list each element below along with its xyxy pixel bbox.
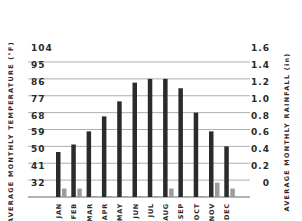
month-label: SEP bbox=[177, 203, 185, 219]
left-tick-label: 68 bbox=[31, 111, 46, 121]
right-tick-label: 1.2 bbox=[251, 77, 270, 87]
right-tick-label: 0 bbox=[263, 178, 270, 188]
left-tick-label: 95 bbox=[31, 60, 46, 70]
rainfall-bar bbox=[77, 189, 82, 197]
month-label: MAR bbox=[86, 203, 94, 221]
right-tick-label: 0.8 bbox=[251, 111, 270, 121]
temperature-bar bbox=[163, 79, 168, 197]
right-tick-label: 0.6 bbox=[251, 127, 270, 137]
month-label: JAN bbox=[55, 203, 63, 219]
temperature-bar bbox=[87, 131, 92, 197]
right-axis-ticks: 00.20.40.60.81.01.21.41.6 bbox=[251, 43, 270, 188]
right-tick-label: 1.4 bbox=[251, 60, 270, 70]
rainfall-bar bbox=[139, 196, 144, 197]
rainfall-bar bbox=[62, 189, 67, 197]
right-tick-label: 0.2 bbox=[251, 161, 270, 171]
rainfall-bar bbox=[200, 196, 205, 197]
month-label: JUN bbox=[132, 203, 140, 220]
bars bbox=[56, 79, 235, 197]
temperature-bar bbox=[56, 152, 61, 197]
month-labels: JANFEBMARAPRMAYJUNJULAUGSEPOCTNOVDEC bbox=[55, 203, 231, 221]
left-tick-label: 104 bbox=[31, 43, 53, 53]
right-tick-label: 0.4 bbox=[251, 144, 270, 154]
left-tick-label: 86 bbox=[31, 77, 46, 87]
gridlines bbox=[28, 62, 250, 197]
temperature-bar bbox=[102, 116, 107, 197]
month-label: FEB bbox=[70, 203, 78, 219]
temperature-bar bbox=[209, 131, 214, 197]
rainfall-bar bbox=[169, 189, 174, 197]
temperature-bar bbox=[194, 113, 199, 197]
rainfall-bar bbox=[154, 196, 159, 197]
rainfall-bar bbox=[108, 196, 113, 197]
left-tick-label: 77 bbox=[31, 94, 46, 104]
right-axis-title: AVERAGE MONTHLY RAINFALL (in) bbox=[283, 52, 291, 211]
month-label: APR bbox=[101, 203, 109, 220]
right-tick-label: 1.6 bbox=[251, 43, 270, 53]
rainfall-bar bbox=[123, 196, 128, 197]
temperature-bar bbox=[148, 79, 153, 197]
left-tick-label: 41 bbox=[31, 161, 46, 171]
temperature-bar bbox=[133, 83, 138, 197]
right-tick-label: 1.0 bbox=[251, 94, 270, 104]
temperature-bar bbox=[117, 101, 122, 197]
left-axis-ticks: 3241505968778695104 bbox=[31, 43, 53, 188]
month-label: NOV bbox=[208, 203, 216, 221]
left-tick-label: 59 bbox=[31, 127, 46, 137]
left-tick-label: 32 bbox=[31, 178, 46, 188]
month-label: MAY bbox=[116, 203, 124, 221]
rainfall-bar bbox=[93, 196, 98, 197]
rainfall-bar bbox=[184, 196, 189, 197]
climate-chart: 3241505968778695104 00.20.40.60.81.01.21… bbox=[0, 0, 302, 221]
temperature-bar bbox=[224, 146, 229, 197]
rainfall-bar bbox=[215, 183, 220, 197]
month-label: OCT bbox=[193, 203, 201, 220]
rainfall-bar bbox=[230, 189, 235, 197]
month-label: DEC bbox=[223, 203, 231, 220]
temperature-bar bbox=[178, 88, 183, 197]
month-label: JUL bbox=[147, 203, 155, 218]
temperature-bar bbox=[71, 145, 76, 198]
left-axis-title: AVERAGE MONTHLY TEMPERATURE (°F) bbox=[7, 41, 15, 221]
left-tick-label: 50 bbox=[31, 144, 46, 154]
month-label: AUG bbox=[162, 203, 170, 221]
